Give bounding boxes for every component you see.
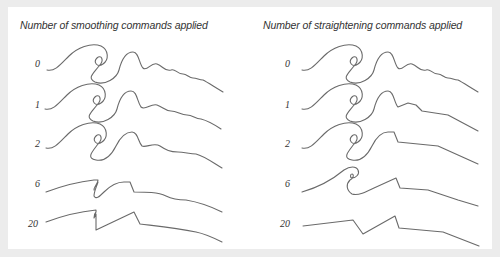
left-curve-0 bbox=[47, 45, 223, 92]
wave-curves bbox=[0, 0, 500, 257]
left-curve-20 bbox=[46, 210, 222, 242]
right-curve-20 bbox=[303, 216, 479, 246]
right-curve-6 bbox=[302, 167, 478, 206]
left-curve-1 bbox=[45, 84, 221, 129]
right-curve-1 bbox=[302, 84, 478, 131]
right-curve-0 bbox=[302, 45, 478, 92]
left-curve-6 bbox=[46, 180, 222, 212]
right-curve-2 bbox=[302, 123, 478, 164]
left-curve-2 bbox=[46, 123, 222, 168]
